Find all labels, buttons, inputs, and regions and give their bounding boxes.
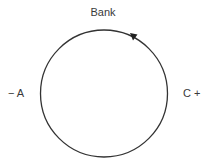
cycle-circle-graphic [0,0,210,165]
label-c-plus: C + [183,87,200,99]
label-bank: Bank [0,6,206,18]
label-minus-a: − A [8,87,24,99]
cycle-diagram: Bank − A C + [0,0,210,165]
cycle-circle [41,30,168,157]
